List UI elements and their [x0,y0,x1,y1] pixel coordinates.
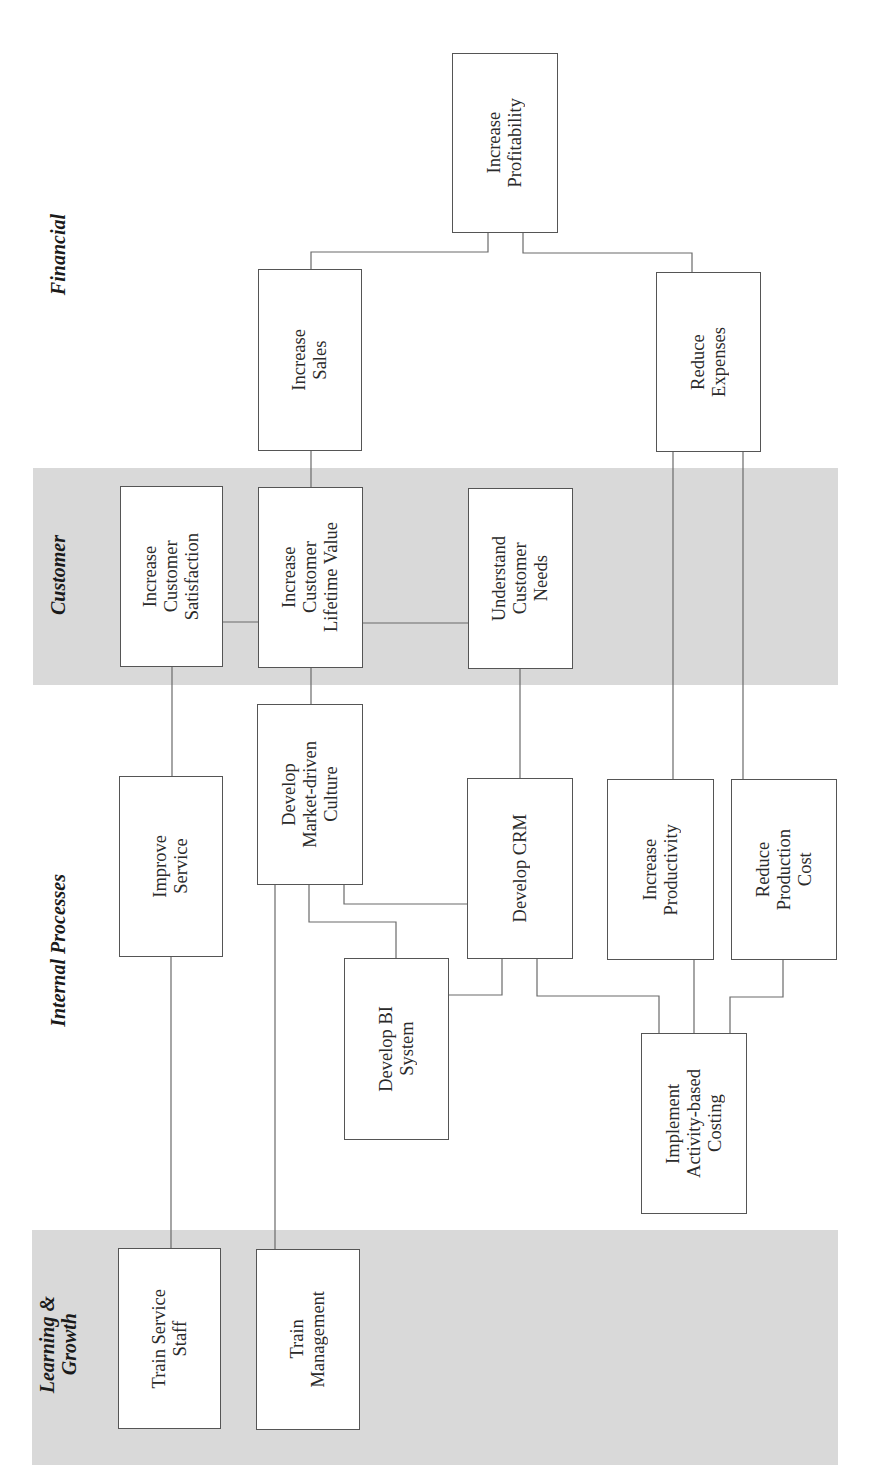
node-improve-service[interactable]: Improve Service [119,776,223,957]
node-develop-bi-system[interactable]: Develop BI System [344,958,449,1140]
node-increase-profitability[interactable]: Increase Profitability [452,53,558,233]
node-train-management[interactable]: Train Management [256,1249,360,1430]
connector-profitability-expenses [523,233,692,272]
node-increase-customer-lifetime-value[interactable]: Increase Customer Lifetime Value [258,487,363,668]
node-understand-customer-needs[interactable]: Understand Customer Needs [468,488,573,669]
node-implement-activity-based-costing[interactable]: Implement Activity-based Costing [641,1033,747,1214]
node-develop-crm[interactable]: Develop CRM [467,778,573,959]
node-reduce-production-cost[interactable]: Reduce Production Cost [731,779,837,960]
perspective-financial-label: Financial [38,200,78,310]
node-train-service-staff[interactable]: Train Service Staff [118,1248,221,1429]
connector-culture-crm [344,885,467,904]
connector-profitability-sales [311,233,488,269]
connector-production-cost-abc [730,960,783,1033]
perspective-customer-label: Customer [38,520,78,630]
node-increase-productivity[interactable]: Increase Productivity [607,779,714,960]
connector-crm-abc [537,959,659,1033]
connector-bi-crm [449,959,502,995]
perspective-learning-growth-label: Learning & Growth [32,1285,84,1405]
node-reduce-expenses[interactable]: Reduce Expenses [656,272,761,452]
connector-culture-bi [309,885,396,958]
perspective-internal-processes-label: Internal Processes [38,850,78,1050]
node-develop-market-driven-culture[interactable]: Develop Market-driven Culture [257,704,363,885]
node-increase-customer-satisfaction[interactable]: Increase Customer Satisfaction [120,486,223,667]
node-increase-sales[interactable]: Increase Sales [258,269,362,451]
